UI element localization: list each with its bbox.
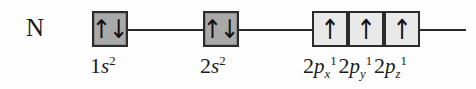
subshell-label-2pz: 2pz1 — [374, 53, 407, 79]
connector-line-1s-to-2s — [126, 29, 205, 31]
electron-arrows-2py: ↑ — [356, 18, 375, 41]
subshell-label-2s-superscript: 2 — [219, 54, 225, 68]
subshell-label-2px: 2px1 — [303, 53, 337, 79]
connector-line-2s-to-2p — [238, 29, 314, 31]
subshell-label-1s-shell: 1 — [90, 53, 101, 78]
subshell-label-group-2p: 2px1 2py1 2pz1 — [303, 53, 407, 79]
subshell-label-2py-subscript: y — [360, 67, 366, 81]
subshell-label-2py-superscript: 1 — [366, 54, 372, 68]
orbital-box-2s[interactable]: ↑↓ — [203, 11, 239, 47]
arrow-up-icon: ↑ — [320, 15, 339, 43]
subshell-label-2pz-superscript: 1 — [401, 54, 407, 68]
subshell-label-2px-superscript: 1 — [330, 54, 336, 68]
arrow-up-icon: ↑ — [356, 15, 375, 43]
subshell-label-1s: 1s2 — [90, 53, 116, 79]
subshell-label-2pz-shell: 2 — [374, 53, 385, 78]
subshell-label-1s-superscript: 2 — [109, 54, 115, 68]
subshell-label-2s-orbital: s — [211, 54, 219, 78]
subshell-label-2py-shell: 2 — [339, 53, 350, 78]
arrow-down-icon: ↓ — [220, 16, 239, 42]
arrow-up-icon: ↑ — [392, 15, 411, 43]
orbital-diagram: N ↑↓ ↑↓ ↑ ↑ ↑ 1s2 2s2 — [0, 0, 476, 89]
subshell-label-2px-shell: 2 — [303, 53, 314, 78]
subshell-label-2pz-orbital: p — [385, 54, 396, 78]
subshell-label-2py: 2py1 — [339, 53, 373, 79]
orbital-box-2pz[interactable]: ↑ — [384, 11, 420, 47]
subshell-label-2px-orbital: p — [314, 54, 325, 78]
subshell-label-2s-shell: 2 — [200, 53, 211, 78]
orbital-box-2py[interactable]: ↑ — [348, 11, 384, 47]
electron-arrows-2s: ↑↓ — [202, 18, 241, 41]
subshell-label-1s-orbital: s — [101, 54, 109, 78]
subshell-label-2pz-subscript: z — [396, 67, 401, 81]
electron-arrows-1s: ↑↓ — [91, 18, 130, 41]
orbital-box-2px[interactable]: ↑ — [312, 11, 348, 47]
arrow-down-icon: ↓ — [109, 16, 128, 42]
subshell-label-2s: 2s2 — [200, 53, 226, 79]
electron-arrows-2px: ↑ — [320, 18, 339, 41]
subshell-label-2py-orbital: p — [350, 54, 361, 78]
subshell-label-2px-subscript: x — [325, 67, 331, 81]
element-symbol-label: N — [26, 14, 44, 42]
connector-line-2p-trailing — [418, 29, 466, 31]
electron-arrows-2pz: ↑ — [392, 18, 411, 41]
orbital-box-1s[interactable]: ↑↓ — [92, 11, 128, 47]
